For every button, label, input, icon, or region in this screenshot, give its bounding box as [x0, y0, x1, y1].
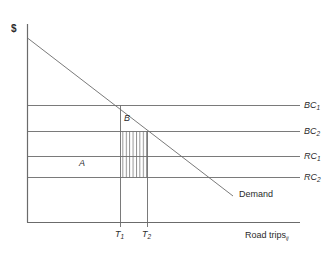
- cost-line-label-bc2: BC2: [304, 127, 320, 136]
- x-tick-label-t1: T1: [115, 230, 124, 239]
- cost-line-label-rc1-sub: 1: [317, 155, 321, 162]
- area-label-a: A: [79, 159, 85, 168]
- cost-line-label-bc1-base: BC: [304, 100, 317, 110]
- x-tick-label-t2-base: T: [142, 229, 148, 239]
- x-tick-label-t1-sub: 1: [121, 233, 125, 240]
- cost-line-label-bc1: BC1: [304, 101, 320, 110]
- x-axis-label: Road tripsij: [245, 231, 289, 240]
- x-tick-label-t2: T2: [142, 230, 151, 239]
- area-label-b: B: [124, 114, 130, 123]
- cost-line-label-rc1-base: RC: [304, 151, 317, 161]
- cost-line-label-rc2-sub: 2: [317, 176, 321, 183]
- x-tick-label-t2-sub: 2: [148, 233, 152, 240]
- hatched-region-b: [121, 132, 148, 178]
- economics-supply-demand-figure: $ BC1 BC2 RC1 RC2 A B Demand T1 T2 Road …: [0, 0, 332, 254]
- cost-line-label-rc1: RC1: [304, 152, 321, 161]
- x-axis-label-sub: ij: [286, 235, 289, 241]
- cost-line-label-bc2-base: BC: [304, 126, 317, 136]
- x-tick-label-t1-base: T: [115, 229, 121, 239]
- cost-line-label-rc2-base: RC: [304, 172, 317, 182]
- cost-line-label-rc2: RC2: [304, 173, 321, 182]
- x-axis-label-base: Road trips: [245, 230, 286, 240]
- demand-curve-label: Demand: [239, 190, 273, 199]
- cost-line-label-bc1-sub: 1: [317, 104, 321, 111]
- cost-line-label-bc2-sub: 2: [317, 130, 321, 137]
- plot-canvas: [0, 0, 332, 254]
- y-axis-label: $: [11, 24, 17, 34]
